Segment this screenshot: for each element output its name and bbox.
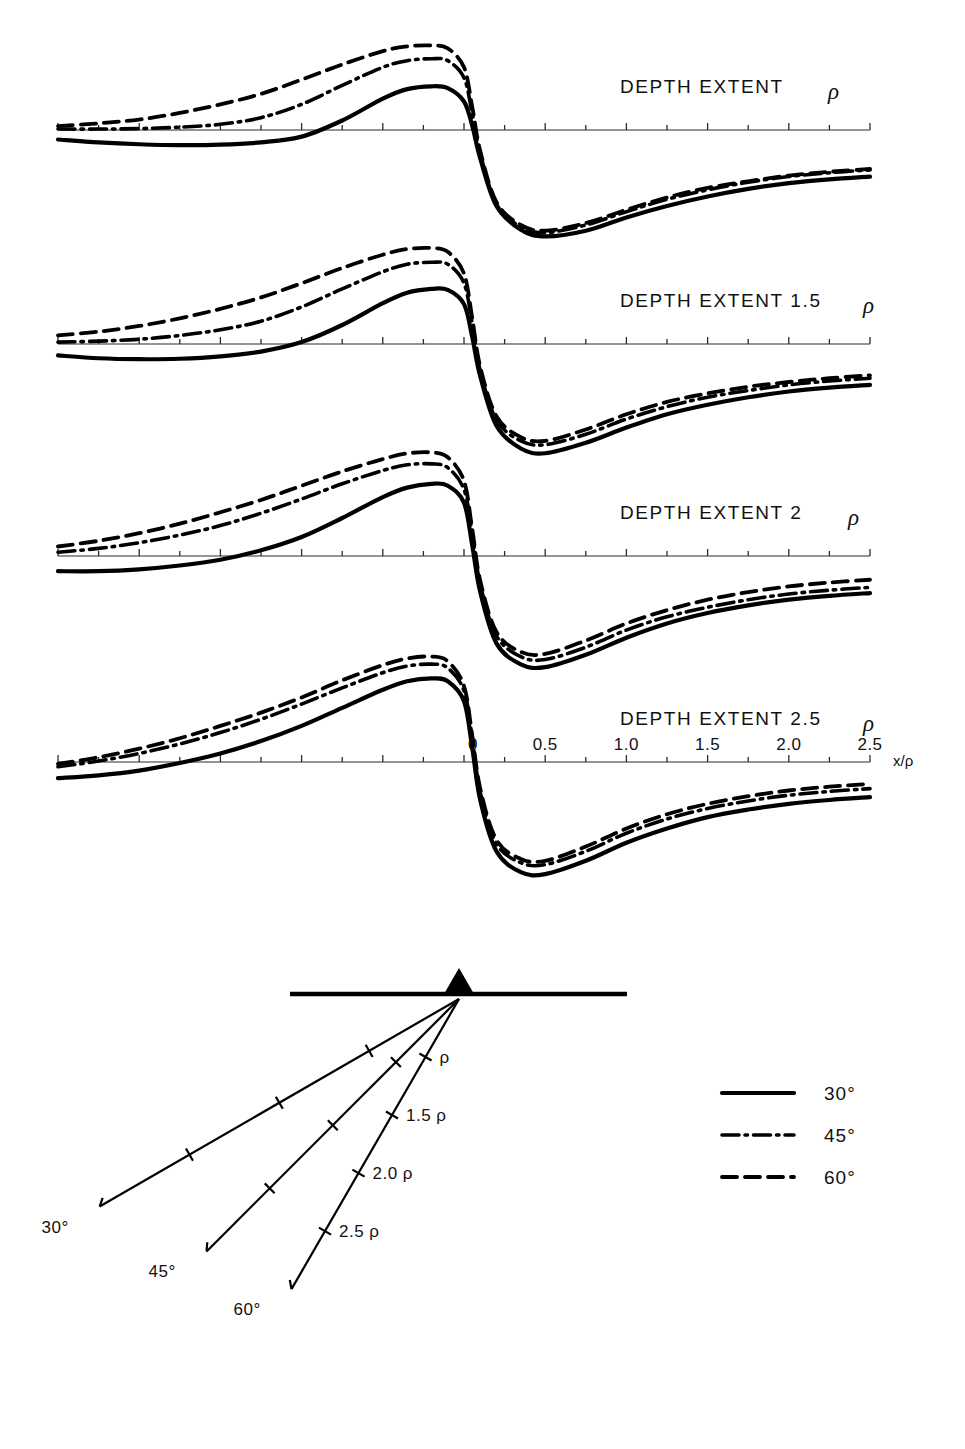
depth-mark-label: ρ [439, 1048, 449, 1067]
dip-ray-45: 45° [149, 999, 459, 1281]
panel-label-rho: ρ [827, 79, 839, 104]
panel-label-rho: ρ [862, 711, 874, 736]
panel-label: DEPTH EXTENT 1.5 [620, 290, 822, 311]
anomaly-profile-figure: DEPTH EXTENT ρDEPTH EXTENT 1.5ρDEPTH EXT… [0, 0, 965, 1449]
x-axis-title: x/ρ [893, 752, 913, 769]
profile-panels: DEPTH EXTENT ρDEPTH EXTENT 1.5ρDEPTH EXT… [58, 45, 874, 875]
legend-label: 45° [824, 1125, 856, 1146]
ray-end-barb [290, 1280, 292, 1289]
legend-entry-60deg: 60° [722, 1167, 856, 1188]
ray-depth-tick [419, 1054, 431, 1061]
panel-label-rho: ρ [862, 293, 874, 318]
depth-mark-label: 2.5 ρ [339, 1222, 380, 1241]
curve-30deg [58, 288, 870, 453]
ray-depth-tick [319, 1228, 331, 1235]
figure-root: DEPTH EXTENT ρDEPTH EXTENT 1.5ρDEPTH EXT… [0, 0, 965, 1449]
ray-angle-label: 30° [42, 1218, 69, 1237]
source-geometry-diagram [290, 968, 627, 994]
legend-entry-30deg: 30° [722, 1083, 856, 1104]
panel-label: DEPTH EXTENT 2 [620, 502, 803, 523]
ray-depth-tick [276, 1097, 283, 1109]
profile-panel-1: DEPTH EXTENT ρ [58, 45, 870, 236]
legend-label: 60° [824, 1167, 856, 1188]
curve-30deg [58, 86, 870, 236]
profile-panel-3: DEPTH EXTENT 2ρ [58, 452, 870, 668]
x-tick-label: 0.5 [533, 735, 558, 754]
x-tick-label: 2.0 [776, 735, 801, 754]
curve-60deg [58, 248, 870, 442]
x-tick-label: 2.5 [857, 735, 882, 754]
legend-label: 30° [824, 1083, 856, 1104]
x-tick-label: 1.0 [614, 735, 639, 754]
panel-label-rho: ρ [847, 505, 859, 530]
x-axis-tick-labels: 00.51.01.52.02.5 [468, 735, 883, 754]
ray-depth-tick [366, 1045, 373, 1057]
ray-depth-tick [386, 1112, 398, 1119]
profile-panel-2: DEPTH EXTENT 1.5ρ [58, 248, 874, 454]
legend: 30°45°60° [722, 1083, 856, 1188]
x-tick-label: 0 [468, 735, 478, 754]
ray-line [292, 999, 460, 1289]
panel-label: DEPTH EXTENT [620, 76, 784, 97]
panel-label: DEPTH EXTENT 2.5 [620, 708, 822, 729]
ray-depth-tick [352, 1170, 364, 1177]
body-triangle-icon [444, 968, 474, 994]
ray-angle-label: 45° [149, 1262, 176, 1281]
curve-60deg [58, 45, 870, 230]
dip-ray-60: ρ1.5 ρ2.0 ρ2.5 ρ60° [234, 999, 460, 1319]
ray-depth-tick [186, 1149, 193, 1161]
profile-panel-4: DEPTH EXTENT 2.5ρ [58, 656, 874, 875]
depth-mark-label: 2.0 ρ [372, 1164, 413, 1183]
depth-mark-label: 1.5 ρ [406, 1106, 447, 1125]
x-tick-label: 1.5 [695, 735, 720, 754]
legend-entry-45deg: 45° [722, 1125, 856, 1146]
curve-45deg [58, 464, 870, 661]
ray-end-barb [207, 1242, 208, 1251]
ray-angle-label: 60° [234, 1300, 261, 1319]
dip-rays: 30°45°ρ1.5 ρ2.0 ρ2.5 ρ60° [42, 999, 459, 1319]
